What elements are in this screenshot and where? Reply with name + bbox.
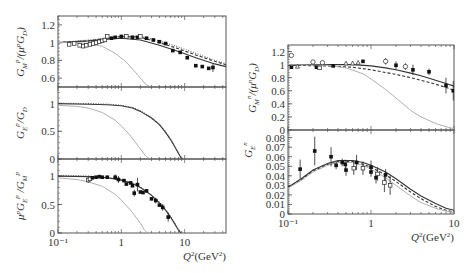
data-point bbox=[340, 161, 344, 165]
ylabel-right-bot: GEn bbox=[241, 142, 257, 158]
data-point bbox=[166, 215, 170, 219]
data-point bbox=[120, 35, 124, 39]
ylabel-left-bot: μpGEp /GMp bbox=[13, 172, 29, 221]
curve-dotted bbox=[58, 176, 182, 234]
y-tick-label: 0.08 bbox=[266, 132, 286, 144]
data-point bbox=[289, 53, 293, 57]
data-point bbox=[78, 43, 82, 47]
data-point bbox=[158, 40, 162, 44]
data-point bbox=[178, 51, 182, 55]
data-point bbox=[207, 67, 211, 71]
data-point bbox=[154, 199, 158, 203]
plot-frame bbox=[58, 16, 226, 87]
form-factor-figure: 0.60.811.200.5100.5110⁻¹11000.20.40.60.8… bbox=[0, 0, 474, 273]
data-point bbox=[329, 155, 333, 159]
data-point bbox=[403, 64, 407, 68]
y-tick-label: 1.2 bbox=[271, 46, 285, 58]
data-point bbox=[361, 166, 365, 170]
y-tick-label: 1 bbox=[280, 59, 286, 71]
y-tick-label: 1.2 bbox=[41, 19, 55, 31]
data-point bbox=[369, 170, 373, 174]
data-point bbox=[344, 61, 348, 65]
panel-right_top: 00.20.40.60.811.2 bbox=[271, 45, 455, 136]
data-point bbox=[113, 36, 117, 40]
y-tick-label: 0.5 bbox=[41, 199, 55, 211]
y-tick-label: 1 bbox=[50, 37, 56, 49]
data-point bbox=[320, 60, 324, 64]
data-point bbox=[110, 36, 114, 40]
data-point bbox=[139, 35, 143, 39]
data-point bbox=[451, 89, 455, 93]
data-point bbox=[361, 60, 365, 64]
x-tick-label: 1 bbox=[368, 217, 374, 229]
data-point bbox=[105, 175, 109, 179]
x-tick-label: 10⁻¹ bbox=[278, 217, 298, 229]
data-point bbox=[351, 61, 355, 65]
data-point bbox=[85, 43, 89, 47]
data-point bbox=[185, 56, 189, 60]
curve-gray bbox=[58, 43, 152, 87]
y-tick-label: 0.8 bbox=[41, 54, 55, 66]
data-point bbox=[158, 203, 162, 207]
data-point bbox=[105, 35, 109, 39]
data-point bbox=[122, 179, 126, 183]
x-tick-label: 1 bbox=[119, 236, 125, 248]
data-point bbox=[313, 149, 317, 153]
data-point bbox=[150, 197, 154, 201]
data-point bbox=[194, 64, 198, 68]
ylabel-right-top: GMn/(μnGD) bbox=[245, 63, 261, 113]
data-point bbox=[117, 178, 121, 182]
data-point bbox=[100, 175, 104, 179]
y-tick-label: 0.8 bbox=[271, 72, 285, 84]
data-point bbox=[343, 163, 347, 167]
data-point bbox=[72, 42, 76, 46]
data-point bbox=[152, 38, 156, 42]
x-axis-titles: Q2(GeV2) Q2(GeV2) bbox=[183, 231, 454, 263]
plot-frame bbox=[58, 87, 226, 159]
data-point bbox=[132, 191, 136, 195]
data-point bbox=[103, 38, 107, 42]
plot-frame bbox=[58, 159, 226, 233]
data-point bbox=[388, 184, 392, 188]
data-point bbox=[444, 84, 448, 88]
data-point bbox=[355, 161, 359, 165]
curves bbox=[58, 36, 226, 87]
plot-frame bbox=[288, 45, 454, 130]
data-point bbox=[383, 59, 387, 63]
data-point bbox=[145, 189, 149, 193]
data-point bbox=[164, 42, 168, 46]
ylabel-left-top: GMp/(μpGD) bbox=[13, 27, 29, 77]
x-tick-label: 10 bbox=[179, 236, 191, 248]
curve-gray bbox=[58, 105, 150, 159]
y-tick-label: 1 bbox=[50, 98, 56, 110]
data-point bbox=[67, 43, 71, 47]
data-point bbox=[136, 183, 140, 187]
data-point bbox=[356, 60, 360, 64]
y-tick-label: 0.5 bbox=[41, 125, 55, 137]
data-point bbox=[131, 184, 135, 188]
y-tick-label: 1 bbox=[50, 170, 56, 182]
data-point bbox=[211, 66, 215, 70]
data-point bbox=[427, 70, 431, 74]
y-tick-label: 0.6 bbox=[271, 85, 285, 97]
data-point bbox=[113, 175, 117, 179]
data-point bbox=[171, 49, 175, 53]
panel-right_bot: 00.010.020.030.040.050.060.070.0810⁻¹110 bbox=[266, 130, 460, 229]
data-point bbox=[125, 35, 129, 39]
plot-panels: 0.60.811.200.5100.5110⁻¹11000.20.40.60.8… bbox=[41, 16, 460, 248]
curves bbox=[58, 103, 183, 159]
data-points bbox=[289, 53, 455, 100]
data-point bbox=[384, 173, 388, 177]
y-tick-label: 0 bbox=[50, 153, 56, 165]
x-tick-label: 10⁻¹ bbox=[48, 236, 68, 248]
curves bbox=[58, 176, 182, 234]
x-tick-label: 10 bbox=[449, 217, 461, 229]
data-point bbox=[131, 36, 135, 40]
data-point bbox=[383, 181, 387, 185]
data-points bbox=[298, 137, 392, 195]
data-point bbox=[161, 206, 165, 210]
data-point bbox=[394, 63, 398, 67]
data-point bbox=[141, 191, 145, 195]
curve-solid bbox=[58, 38, 226, 66]
data-point bbox=[290, 65, 294, 69]
